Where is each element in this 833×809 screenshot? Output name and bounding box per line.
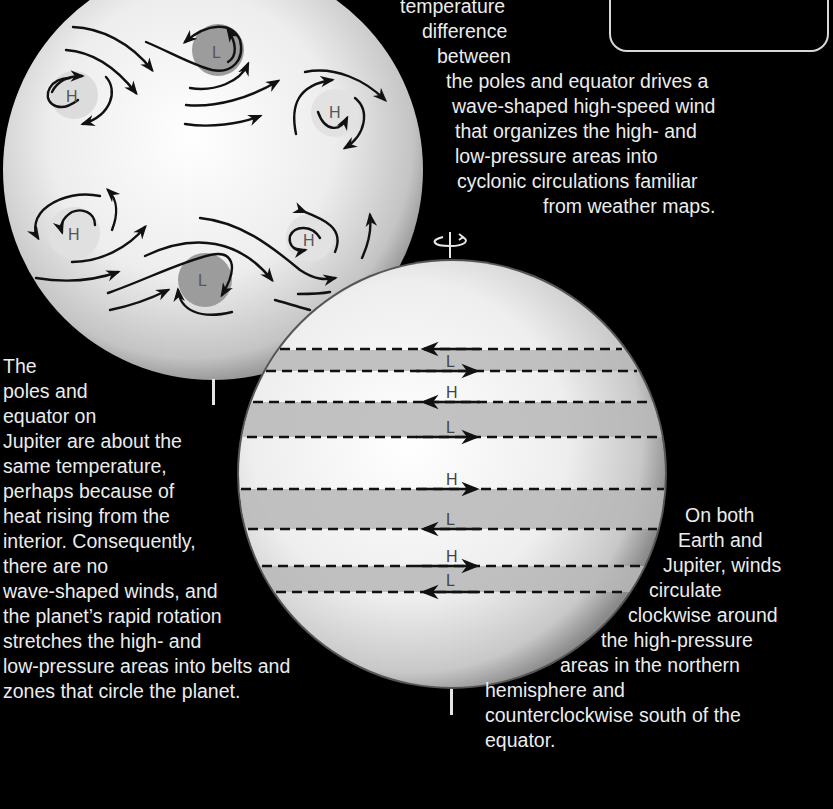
- caption-line: equator.: [485, 728, 741, 753]
- caption-line: temperature: [400, 0, 663, 19]
- caption-line: hemisphere and: [485, 678, 741, 703]
- earth-label-l: L: [198, 272, 207, 289]
- caption-line: clockwise around: [628, 603, 833, 628]
- caption-line: poles and: [3, 379, 290, 404]
- belt: [230, 402, 680, 437]
- caption-line: the poles and equator drives a: [446, 69, 709, 94]
- jupiter-label-h: H: [446, 384, 458, 401]
- rotation-arrow-icon: [435, 232, 466, 258]
- caption-line: same temperature,: [3, 454, 290, 479]
- caption-line: difference: [422, 19, 685, 44]
- caption-line: heat rising from the: [3, 504, 290, 529]
- caption-line: wave-shaped winds, and: [3, 579, 290, 604]
- earth-caption: temperature difference between the poles…: [400, 0, 663, 219]
- caption-line: zones that circle the planet.: [3, 679, 290, 704]
- caption-line: Jupiter are about the: [3, 429, 290, 454]
- caption-line: the high-pressure: [601, 628, 833, 653]
- caption-line: cyclonic circulations familiar: [457, 169, 720, 194]
- caption-line: there are no: [3, 554, 290, 579]
- caption-line: On both: [685, 503, 833, 528]
- earth-label-h: H: [66, 88, 78, 105]
- caption-line: wave-shaped high-speed wind: [452, 94, 715, 119]
- caption-line: stretches the high- and: [3, 629, 290, 654]
- caption-line: from weather maps.: [543, 194, 806, 219]
- earth-label-h: H: [68, 226, 80, 243]
- jupiter-label-l: L: [446, 572, 455, 589]
- caption-line: counterclockwise south of the: [485, 703, 741, 728]
- caption-line: perhaps because of: [3, 479, 290, 504]
- caption-line: low-pressure areas into: [455, 144, 718, 169]
- caption-line: areas in the northern: [560, 653, 816, 678]
- caption-line: low-pressure areas into belts and: [3, 654, 290, 679]
- jupiter-label-h: H: [446, 471, 458, 488]
- both-caption: On both Earth and Jupiter, winds circula…: [485, 503, 741, 753]
- caption-line: between: [437, 44, 700, 69]
- caption-line: The: [3, 354, 290, 379]
- caption-line: equator on: [3, 404, 290, 429]
- earth-label-h: H: [329, 104, 341, 121]
- caption-line: Jupiter, winds: [663, 553, 833, 578]
- caption-line: that organizes the high- and: [455, 119, 718, 144]
- jupiter-label-l: L: [446, 511, 455, 528]
- caption-line: circulate: [649, 578, 833, 603]
- jupiter-label-h: H: [446, 548, 458, 565]
- caption-line: interior. Consequently,: [3, 529, 290, 554]
- earth-label-l: L: [212, 44, 221, 61]
- jupiter-label-l: L: [446, 353, 455, 370]
- jupiter-caption: The poles and equator on Jupiter are abo…: [3, 354, 290, 704]
- caption-line: Earth and: [678, 528, 833, 553]
- belt: [230, 350, 680, 371]
- jupiter-label-l: L: [446, 419, 455, 436]
- caption-line: the planet’s rapid rotation: [3, 604, 290, 629]
- earth-label-h: H: [303, 232, 315, 249]
- jupiter-axis-south: [450, 689, 453, 715]
